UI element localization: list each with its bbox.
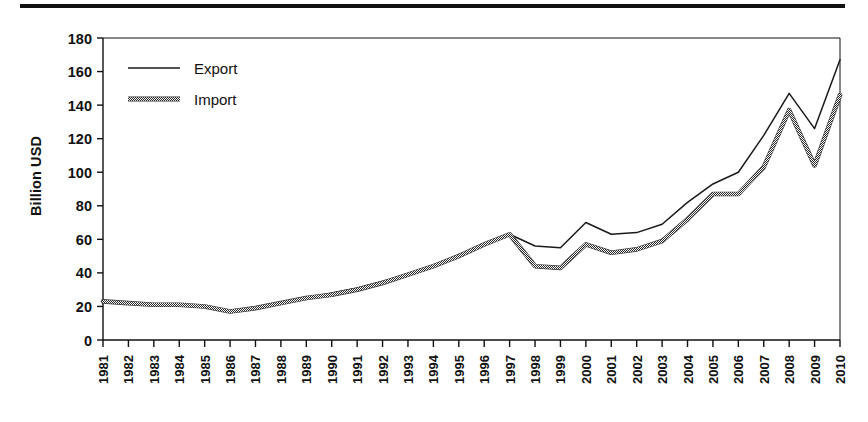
x-tick-label: 1982 (121, 355, 136, 384)
y-tick-label: 180 (68, 31, 92, 47)
x-tick-label: 2002 (630, 355, 645, 384)
x-tick-label: 2003 (655, 355, 670, 384)
y-tick-label: 60 (76, 232, 92, 248)
series-line-import (103, 95, 840, 311)
x-tick-label: 1998 (528, 355, 543, 384)
y-tick-label: 140 (68, 98, 92, 114)
legend-label-import: Import (194, 91, 237, 108)
x-tick-label: 2006 (731, 355, 746, 384)
x-tick-label: 2001 (604, 355, 619, 384)
x-tick-label: 1996 (477, 355, 492, 384)
chart-legend: ExportImport (128, 60, 238, 108)
x-tick-label: 1988 (274, 355, 289, 384)
x-tick-label: 1993 (401, 355, 416, 384)
x-tick-label: 1991 (350, 355, 365, 384)
x-tick-label: 1997 (503, 355, 518, 384)
x-tick-label: 2008 (782, 355, 797, 384)
x-tick-label: 1999 (553, 355, 568, 384)
plot-frame (103, 38, 840, 340)
x-tick-label: 1995 (452, 355, 467, 384)
y-tick-label: 0 (84, 333, 92, 349)
y-axis-ticks: 020406080100120140160180 (68, 31, 103, 349)
x-tick-label: 1987 (248, 355, 263, 384)
x-tick-label: 2004 (681, 354, 696, 384)
x-tick-label: 1981 (96, 355, 111, 384)
chart-figure: Billion USD 020406080100120140160180 198… (0, 0, 868, 422)
y-tick-label: 120 (68, 131, 92, 147)
series-line-import-texture (103, 95, 840, 311)
x-tick-label: 2007 (757, 355, 772, 384)
x-tick-label: 1990 (325, 355, 340, 384)
line-chart-plot: 020406080100120140160180 198119821983198… (0, 0, 868, 422)
x-tick-label: 1984 (172, 354, 187, 384)
y-tick-label: 40 (76, 265, 92, 281)
x-tick-label: 1986 (223, 355, 238, 384)
x-tick-label: 2009 (808, 355, 823, 384)
x-axis-ticks: 1981198219831984198519861987198819891990… (96, 340, 848, 384)
x-tick-label: 2010 (833, 355, 848, 384)
legend-label-export: Export (194, 60, 238, 77)
x-tick-label: 1985 (198, 355, 213, 384)
y-tick-label: 80 (76, 198, 92, 214)
x-tick-label: 1994 (426, 354, 441, 384)
x-tick-label: 1989 (299, 355, 314, 384)
y-tick-label: 160 (68, 64, 92, 80)
y-tick-label: 100 (68, 165, 92, 181)
x-tick-label: 2000 (579, 355, 594, 384)
x-tick-label: 1983 (147, 355, 162, 384)
x-tick-label: 1992 (376, 355, 391, 384)
y-tick-label: 20 (76, 299, 92, 315)
x-tick-label: 2005 (706, 355, 721, 384)
